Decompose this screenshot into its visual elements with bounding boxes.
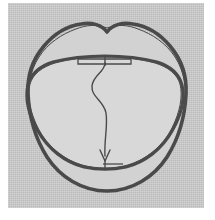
figure-page [0, 0, 215, 220]
line-diagram [0, 0, 215, 220]
